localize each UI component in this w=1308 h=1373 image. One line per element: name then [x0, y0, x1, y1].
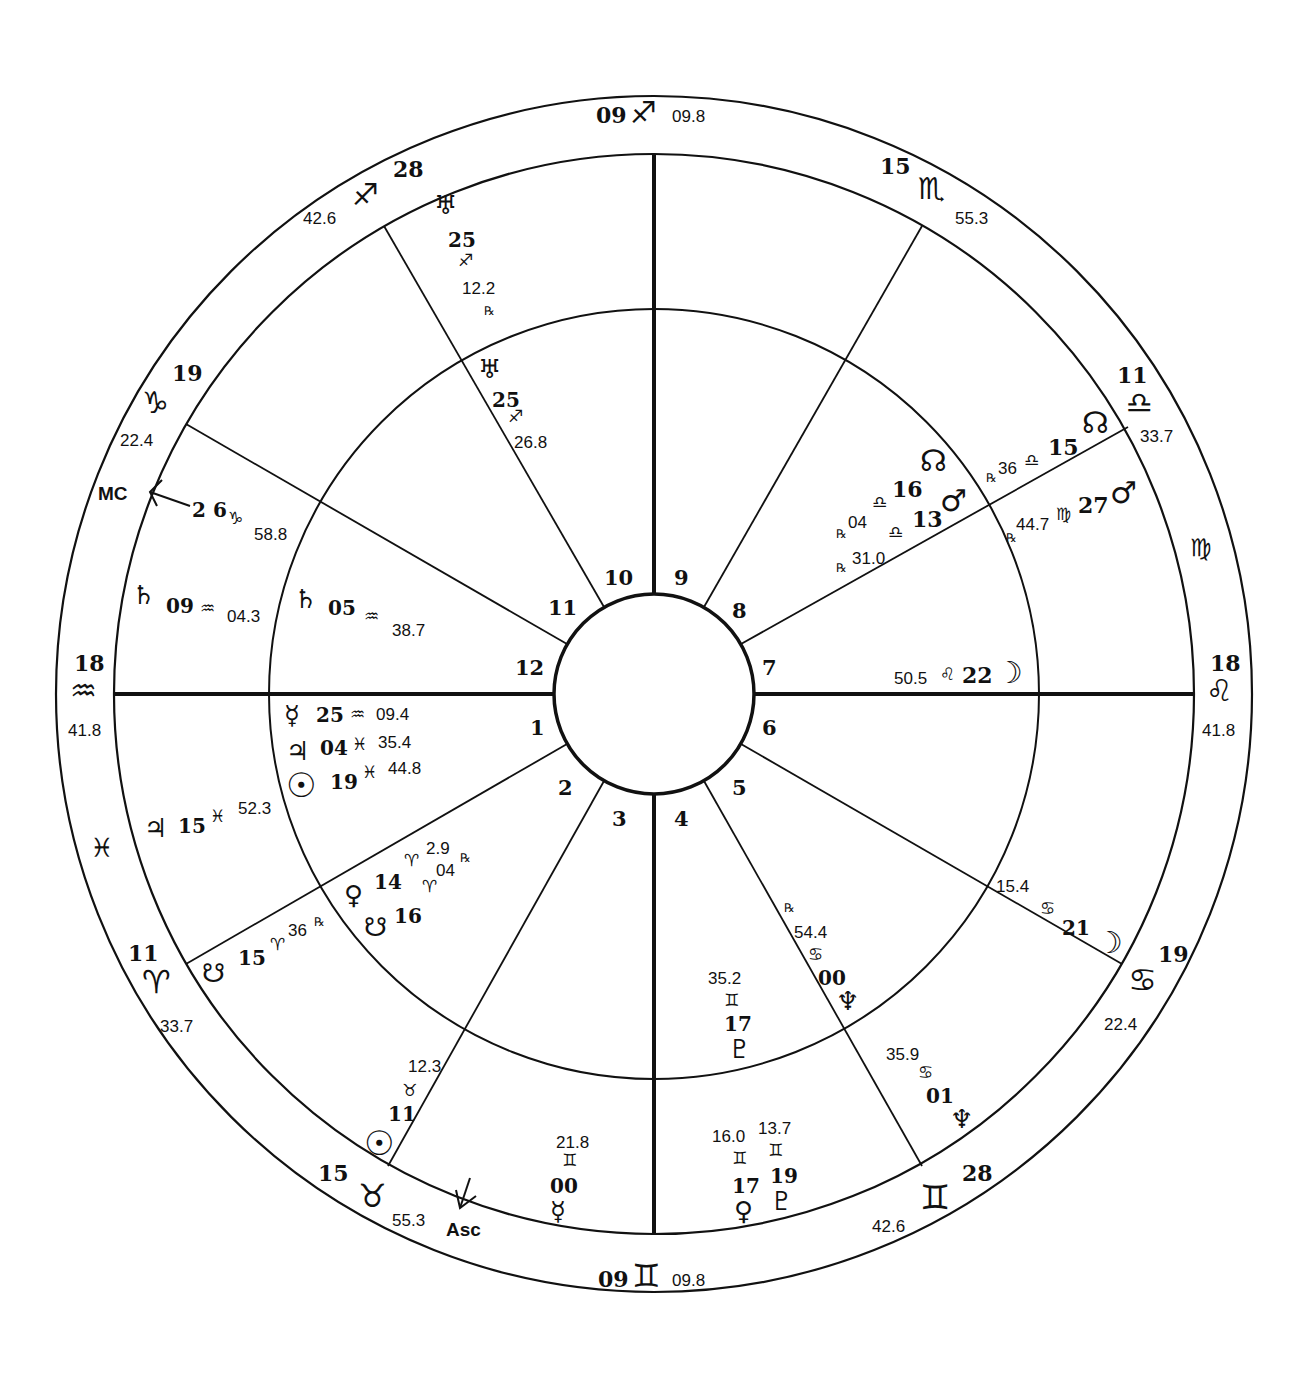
- chart-wheel: [0, 0, 1308, 1373]
- outer-north-node-degree: 15: [1048, 436, 1079, 458]
- inner-mars-minutes: 31.0: [852, 550, 885, 567]
- outer-pluto-minutes: 13.7: [758, 1120, 791, 1137]
- pisces-icon: ♓: [90, 835, 113, 861]
- cusp-lower-left-degree: 15: [318, 1162, 349, 1184]
- inner-saturn-minutes: 38.7: [392, 622, 425, 639]
- venus-icon: ♀: [734, 1198, 753, 1224]
- outer-moon-minutes: 15.4: [996, 878, 1029, 895]
- virgo-icon: ♍: [1056, 506, 1071, 523]
- cancer-icon: ♋: [1040, 900, 1055, 917]
- outer-neptune-minutes: 35.9: [886, 1046, 919, 1063]
- moon-icon: ☽: [996, 658, 1023, 688]
- cusp-upper-left-degree: 28: [393, 158, 424, 180]
- gemini-icon: ♊: [632, 1260, 661, 1292]
- jupiter-icon: ♃: [144, 815, 167, 841]
- outer-south-node-degree: 15: [238, 948, 266, 968]
- leo-icon: ♌: [940, 666, 955, 683]
- uranus-icon: ♅: [434, 192, 457, 218]
- house-number-3: 3: [612, 808, 627, 829]
- retrograde-icon: ℞: [986, 472, 997, 484]
- outer-moon-degree: 21: [1062, 918, 1090, 938]
- inner-moon-minutes: 50.5: [894, 670, 927, 687]
- center-circle: [554, 594, 754, 794]
- inner-venus-degree: 14: [374, 872, 402, 892]
- cusp-right-upper-minutes: 33.7: [1140, 428, 1173, 445]
- cusp-lower-right-degree: 28: [962, 1162, 993, 1184]
- outer-pluto-degree: 19: [770, 1166, 798, 1186]
- cusp-left-minutes: 41.8: [68, 722, 101, 739]
- asc-label: Asc: [446, 1220, 481, 1239]
- sun-icon: ☉: [364, 1126, 394, 1160]
- cusp-upper-left-minutes: 42.6: [303, 210, 336, 227]
- outer-neptune-degree: 01: [926, 1086, 954, 1106]
- retrograde-icon: ℞: [784, 902, 795, 914]
- libra-icon: ♎: [1024, 452, 1039, 469]
- outer-uranus-degree: 25: [448, 230, 476, 250]
- house-number-12: 12: [515, 657, 544, 678]
- cusp-right-lower-minutes: 22.4: [1104, 1016, 1137, 1033]
- mc-degree: 2 6: [192, 500, 227, 520]
- sun-icon: ☉: [286, 768, 316, 802]
- outer-saturn-degree: 09: [166, 596, 194, 616]
- inner-neptune-minutes: 54.4: [794, 924, 827, 941]
- sagittarius-icon: ♐: [458, 252, 473, 269]
- outer-south-node-minutes: 36: [288, 922, 307, 939]
- outer-north-node-minutes: 36: [998, 460, 1017, 477]
- inner-south-node-minutes: 04: [436, 862, 455, 879]
- taurus-icon: ♉: [402, 1082, 417, 1099]
- house-number-2: 2: [558, 777, 573, 798]
- neptune-icon: ♆: [950, 1106, 973, 1132]
- mars-icon: ♂: [1110, 478, 1137, 508]
- inner-jupiter-degree: 04: [320, 738, 348, 758]
- north-node-icon: ☊: [920, 446, 947, 476]
- house-number-8: 8: [732, 600, 747, 621]
- aries-icon: ♈: [422, 878, 437, 895]
- moon-icon: ☽: [1096, 928, 1123, 958]
- capricorn-icon: ♑: [142, 388, 169, 418]
- aquarius-icon: ♒: [350, 706, 365, 723]
- cusp-left-upper-degree: 19: [172, 362, 203, 384]
- inner-neptune-degree: 00: [818, 968, 846, 988]
- house-number-9: 9: [674, 567, 689, 588]
- libra-icon: ♎: [888, 524, 903, 541]
- outer-mercury-minutes: 21.8: [556, 1134, 589, 1151]
- cusp-right-upper-degree: 11: [1117, 364, 1148, 386]
- outer-jupiter-degree: 15: [178, 816, 206, 836]
- inner-uranus-minutes: 26.8: [514, 434, 547, 451]
- inner-jupiter-minutes: 35.4: [378, 734, 411, 751]
- inner-mercury-degree: 25: [316, 705, 344, 725]
- cusp-upper-right-degree: 15: [880, 155, 911, 177]
- inner-pluto-degree: 17: [724, 1014, 752, 1034]
- cusp-bottom-degree: 09: [598, 1268, 629, 1290]
- cusp-left-degree: 18: [74, 652, 105, 674]
- cusp-upper-right-minutes: 55.3: [955, 210, 988, 227]
- pisces-icon: ♓: [210, 808, 225, 825]
- gemini-icon: ♊: [724, 992, 739, 1009]
- house-number-11: 11: [548, 597, 577, 618]
- outer-venus-minutes: 16.0: [712, 1128, 745, 1145]
- aquarius-icon: ♒: [200, 600, 215, 617]
- outer-saturn-minutes: 04.3: [227, 608, 260, 625]
- retrograde-icon: ℞: [836, 528, 847, 540]
- north-node-icon: ☊: [1082, 408, 1109, 438]
- cusp-left-lower-degree: 11: [128, 942, 159, 964]
- cusp-bottom-minutes: 09.8: [672, 1272, 705, 1289]
- inner-pluto-minutes: 35.2: [708, 970, 741, 987]
- south-node-icon: ☋: [202, 960, 225, 986]
- cusp-3: [388, 781, 604, 1166]
- pluto-icon: ♇: [728, 1036, 751, 1062]
- pisces-icon: ♓: [352, 736, 367, 753]
- retrograde-icon: ℞: [484, 305, 495, 317]
- gemini-icon: ♊: [562, 1152, 577, 1169]
- aries-icon: ♈: [404, 852, 419, 869]
- inner-mercury-minutes: 09.4: [376, 706, 409, 723]
- saturn-icon: ♄: [294, 586, 317, 612]
- mercury-icon: ☿: [550, 1198, 566, 1224]
- cusp-right-lower-degree: 19: [1158, 943, 1189, 965]
- outer-mercury-degree: 00: [550, 1176, 578, 1196]
- inner-sun-minutes: 44.8: [388, 760, 421, 777]
- saturn-icon: ♄: [132, 582, 155, 608]
- outer-venus-degree: 17: [732, 1176, 760, 1196]
- cusp-lower-left-minutes: 55.3: [392, 1212, 425, 1229]
- virgo-icon: ♍: [1190, 536, 1212, 560]
